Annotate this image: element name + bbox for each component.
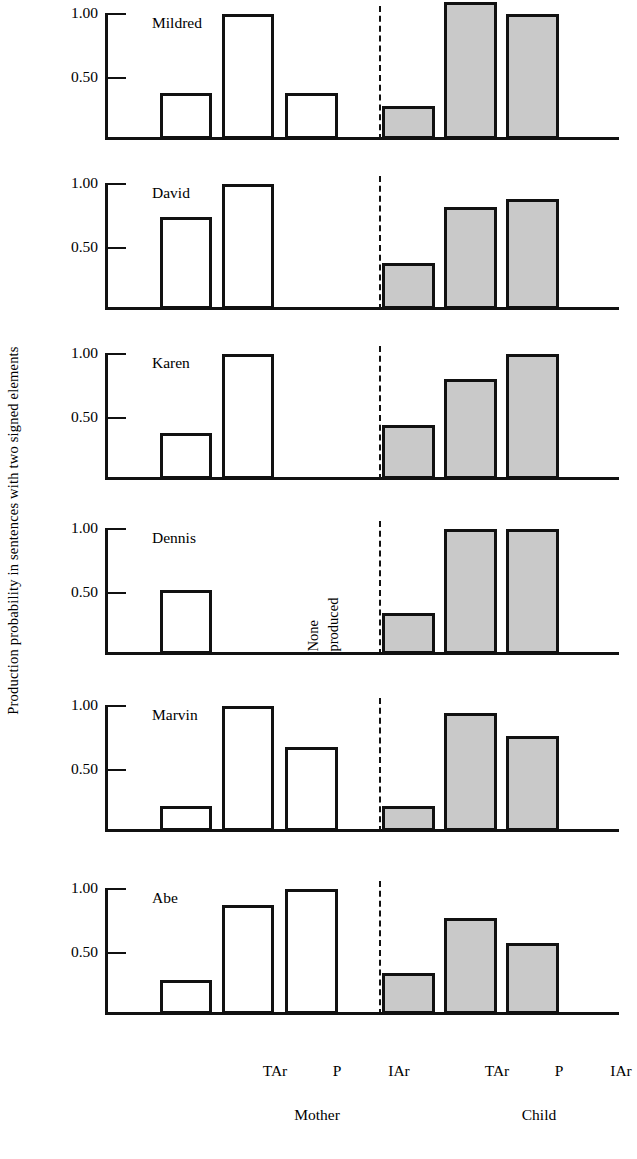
panel-title: Abe (152, 889, 178, 907)
plot-area: Abe (105, 875, 619, 1015)
y-tick-label-1.00: 1.00 (40, 175, 98, 191)
mother-child-divider (379, 698, 381, 832)
none-produced-line-1: None (306, 620, 321, 651)
bar-mother-tar (160, 980, 212, 1014)
panel-abe: 1.000.50Abe (0, 875, 626, 1015)
bar-child-p (444, 379, 497, 479)
y-tick-label-1.00: 1.00 (40, 5, 98, 21)
bar-mother-p (222, 184, 274, 308)
y-tick-0.50 (108, 952, 126, 954)
y-tick-0.50 (108, 592, 126, 594)
plot-area: DennisNoneproduced (105, 515, 619, 655)
y-tick-0.50 (108, 769, 126, 771)
none-produced-line-2: produced (326, 597, 341, 651)
x-label-child-iar: IAr (586, 1063, 637, 1079)
x-label-mother-p: P (302, 1063, 372, 1079)
bar-child-p (444, 713, 497, 831)
y-tick-1.00 (108, 183, 126, 185)
plot-area: David (105, 170, 619, 310)
y-tick-label-0.50: 0.50 (40, 239, 98, 255)
x-label-child-p: P (524, 1063, 594, 1079)
group-labels: Mother Child (105, 1107, 619, 1131)
panel-title: Mildred (152, 14, 202, 32)
bar-child-p (444, 918, 497, 1014)
bar-mother-p (222, 354, 274, 478)
bar-child-tar (382, 613, 435, 654)
x-label-child-tar: TAr (462, 1063, 532, 1079)
y-tick-0.50 (108, 77, 126, 79)
bar-mother-p (222, 14, 274, 138)
y-tick-label-0.50: 0.50 (40, 761, 98, 777)
bar-child-iar (506, 14, 559, 138)
bar-mother-p (222, 905, 274, 1013)
bar-mother-tar (160, 433, 212, 479)
panel-title: Dennis (152, 529, 196, 547)
mother-child-divider (379, 346, 381, 480)
bar-mother-iar (285, 747, 338, 830)
y-tick-1.00 (108, 888, 126, 890)
panel-david: 1.000.50David (0, 170, 626, 310)
bar-mother-tar (160, 217, 212, 309)
bar-mother-iar (285, 889, 338, 1013)
plot-area: Mildred (105, 0, 619, 140)
bar-child-tar (382, 425, 435, 478)
y-tick-0.50 (108, 247, 126, 249)
bar-child-tar (382, 263, 435, 309)
bar-child-iar (506, 354, 559, 478)
x-label-mother-iar: IAr (364, 1063, 434, 1079)
bar-child-iar (506, 199, 559, 308)
none-produced-annotation: Noneproduced (298, 531, 358, 651)
x-axis-labels: TAr P IAr TAr P IAr (105, 1063, 619, 1087)
y-tick-1.00 (108, 528, 126, 530)
x-label-mother-tar: TAr (240, 1063, 310, 1079)
y-tick-1.00 (108, 13, 126, 15)
y-tick-label-1.00: 1.00 (40, 520, 98, 536)
bar-child-tar (382, 806, 435, 831)
plot-area: Marvin (105, 692, 619, 832)
bar-child-p (444, 207, 497, 309)
bar-child-iar (506, 529, 559, 653)
y-tick-label-1.00: 1.00 (40, 345, 98, 361)
bar-mother-tar (160, 806, 212, 831)
y-tick-label-1.00: 1.00 (40, 697, 98, 713)
bar-mother-iar (285, 93, 338, 139)
panel-karen: 1.000.50Karen (0, 340, 626, 480)
plot-area: Karen (105, 340, 619, 480)
panel-mildred: 1.000.50Mildred (0, 0, 626, 140)
panel-marvin: 1.000.50Marvin (0, 692, 626, 832)
mother-child-divider (379, 6, 381, 140)
y-tick-label-0.50: 0.50 (40, 409, 98, 425)
mother-child-divider (379, 521, 381, 655)
bar-child-iar (506, 943, 559, 1014)
mother-child-divider (379, 176, 381, 310)
y-tick-1.00 (108, 353, 126, 355)
y-tick-0.50 (108, 417, 126, 419)
y-tick-label-1.00: 1.00 (40, 880, 98, 896)
bar-mother-tar (160, 93, 212, 139)
mother-child-divider (379, 881, 381, 1015)
group-label-mother: Mother (267, 1107, 367, 1123)
bar-mother-p (222, 706, 274, 830)
panel-title: David (152, 184, 190, 202)
bar-child-tar (382, 106, 435, 138)
panel-title: Karen (152, 354, 190, 372)
y-tick-label-0.50: 0.50 (40, 69, 98, 85)
bar-child-p (444, 529, 497, 653)
bar-child-tar (382, 973, 435, 1014)
panel-dennis: 1.000.50DennisNoneproduced (0, 515, 626, 655)
bar-child-p (444, 2, 497, 139)
y-tick-label-0.50: 0.50 (40, 944, 98, 960)
y-tick-label-0.50: 0.50 (40, 584, 98, 600)
group-label-child: Child (489, 1107, 589, 1123)
panel-title: Marvin (152, 706, 198, 724)
y-tick-1.00 (108, 705, 126, 707)
bar-child-iar (506, 736, 559, 831)
bar-mother-tar (160, 590, 212, 653)
